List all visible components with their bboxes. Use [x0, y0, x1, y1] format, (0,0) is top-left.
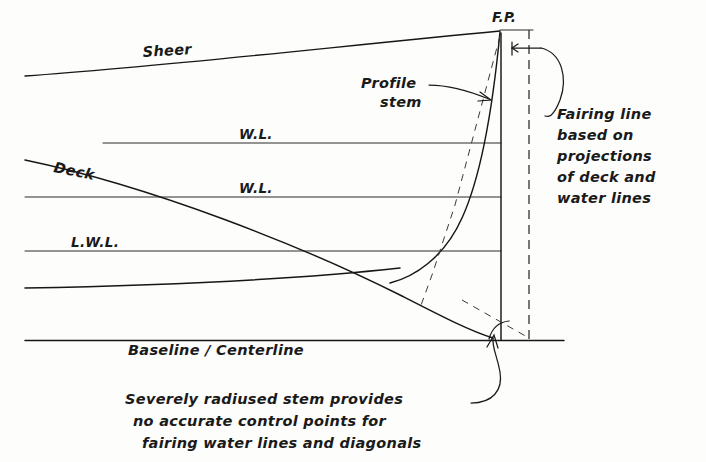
stem-note-line-1: Severely radiused stem provides [125, 391, 403, 407]
deck-label: Deck [52, 159, 97, 183]
fairing-callout-line-1: Fairing line [557, 106, 652, 122]
waterline-lower-label: W.L. [239, 180, 273, 196]
forward-perpendicular-label: F.P. [492, 9, 516, 25]
fairing-callout-line-3: projections [556, 148, 652, 164]
stem-note-leader [471, 338, 501, 403]
stem-note-line-2: no accurate control points for [133, 413, 387, 429]
stem-root-radius-arc [489, 321, 509, 339]
waterline-upper-label: W.L. [239, 126, 273, 142]
fairing-callout-line-2: based on [557, 127, 634, 143]
profile-stem-label-line1: Profile [361, 75, 416, 91]
stem-note-line-3: fairing water lines and diagonals [142, 435, 422, 451]
profile-stem-curve [390, 32, 500, 283]
stem-profile-drawing: Sheer Deck W.L. W.L. L.W.L. Baseline / C… [0, 0, 706, 462]
fairing-projection-line [420, 36, 500, 308]
sheer-line [25, 31, 500, 76]
profile-stem-arrow-head [478, 92, 491, 101]
lwl-label: L.W.L. [71, 234, 119, 250]
fairing-callout-line-4: of deck and [557, 169, 656, 185]
fairing-callout-line-5: water lines [557, 190, 651, 206]
baseline-label: Baseline / Centerline [128, 342, 304, 358]
fairing-projection-tail [462, 300, 529, 338]
profile-stem-label-line2: stem [380, 94, 422, 110]
lowest-waterline-rule [25, 268, 400, 288]
sheer-label: Sheer [142, 41, 193, 60]
diagram-page: Sheer Deck W.L. W.L. L.W.L. Baseline / C… [0, 0, 706, 462]
